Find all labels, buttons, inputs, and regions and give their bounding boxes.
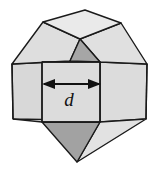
face-right-side <box>100 62 147 122</box>
edge-left-vertical <box>12 64 13 119</box>
figure-container: d <box>0 0 160 170</box>
polyhedron-diagram: d <box>0 0 160 170</box>
edge-right-vertical <box>146 64 147 119</box>
dimension-label-d: d <box>64 89 74 110</box>
